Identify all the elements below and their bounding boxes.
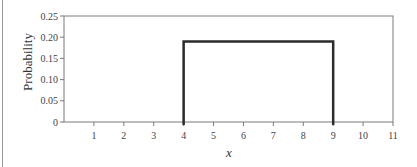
x-tick-label: 5 [211, 130, 216, 141]
y-tick-label: 0.25 [41, 11, 59, 22]
x-tick-label: 2 [121, 130, 126, 141]
x-axis-ticks: 1234567891011 [91, 122, 397, 141]
series [184, 41, 334, 125]
x-axis-title: x [225, 145, 232, 160]
x-tick-label: 7 [271, 130, 276, 141]
plot-frame-rect [64, 16, 393, 122]
x-tick-label: 6 [241, 130, 246, 141]
y-axis-title: Probability [20, 33, 35, 91]
x-tick-label: 4 [181, 130, 186, 141]
y-tick-label: 0 [53, 117, 58, 128]
y-axis-ticks: 00.050.100.150.200.25 [41, 11, 65, 128]
series-line-uniform [184, 41, 334, 125]
chart: 00.050.100.150.200.25 1234567891011 Prob… [0, 0, 417, 167]
y-tick-label: 0.15 [41, 53, 59, 64]
x-tick-label: 1 [91, 130, 96, 141]
y-tick-label: 0.20 [41, 32, 59, 43]
y-tick-label: 0.05 [41, 95, 59, 106]
x-tick-label: 9 [331, 130, 336, 141]
x-tick-label: 10 [358, 130, 368, 141]
x-tick-label: 8 [301, 130, 306, 141]
x-tick-label: 11 [388, 130, 398, 141]
plot-frame [64, 16, 393, 122]
x-tick-label: 3 [151, 130, 156, 141]
y-tick-label: 0.10 [41, 74, 59, 85]
